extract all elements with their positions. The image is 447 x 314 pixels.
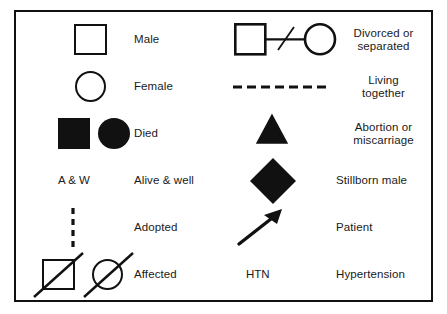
legend-label-died: Died — [134, 127, 158, 140]
filled-square-icon — [58, 118, 90, 149]
legend-row-abortion: Abortion or miscarriage — [224, 110, 431, 157]
symbol-cell-abortion — [224, 110, 336, 157]
label-cell-hypertension: Hypertension — [336, 251, 431, 298]
diagonal-arrow-icon — [236, 208, 288, 248]
open-square-icon — [74, 24, 107, 55]
legend-row-hypertension: HTN Hypertension — [224, 251, 431, 298]
legend-row-living-together: Living together — [224, 63, 431, 110]
legend-row-divorced: Divorced or separated — [224, 16, 431, 63]
symbol-cell-living-together — [224, 63, 336, 110]
filled-diamond-icon — [250, 158, 296, 204]
label-cell-affected: Affected — [134, 251, 224, 298]
legend-label-patient: Patient — [336, 221, 373, 234]
label-cell-adopted: Adopted — [134, 204, 224, 251]
legend-row-female: Female — [16, 63, 224, 110]
legend-label-abortion: Abortion or miscarriage — [336, 121, 431, 147]
symbol-cell-alive-well: A & W — [16, 157, 134, 204]
symbol-cell-died — [16, 110, 134, 157]
legend-label-living-together: Living together — [336, 74, 431, 100]
legend-row-male: Male — [16, 16, 224, 63]
symbol-cell-stillborn-male — [224, 157, 336, 204]
alive-well-abbreviation: A & W — [58, 174, 90, 186]
symbol-cell-female — [16, 63, 134, 110]
legend-row-patient: Patient — [224, 204, 431, 251]
hypertension-abbreviation: HTN — [246, 268, 270, 280]
symbol-cell-patient — [224, 204, 336, 251]
legend-row-alive-well: A & W Alive & well — [16, 157, 224, 204]
open-circle-icon — [75, 71, 106, 102]
horizontal-dashed-line-icon — [232, 83, 332, 91]
affected-slash-lines-icon — [16, 251, 134, 298]
legend-row-died: Died — [16, 110, 224, 157]
label-cell-stillborn-male: Stillborn male — [336, 157, 431, 204]
legend-left-column: Male Female Died A & W — [16, 12, 224, 300]
symbol-cell-hypertension: HTN — [224, 251, 336, 298]
filled-circle-icon — [98, 118, 130, 149]
legend-label-alive-well: Alive & well — [134, 174, 194, 187]
label-cell-alive-well: Alive & well — [134, 157, 224, 204]
label-cell-female: Female — [134, 63, 224, 110]
legend-row-stillborn-male: Stillborn male — [224, 157, 431, 204]
label-cell-abortion: Abortion or miscarriage — [336, 110, 431, 157]
symbol-cell-divorced — [224, 16, 336, 63]
symbol-cell-affected — [16, 251, 134, 298]
label-cell-died: Died — [134, 110, 224, 157]
label-cell-living-together: Living together — [336, 63, 431, 110]
symbol-cell-male — [16, 16, 134, 63]
label-cell-patient: Patient — [336, 204, 431, 251]
label-cell-male: Male — [134, 16, 224, 63]
legend-right-column: Divorced or separated Living together — [224, 12, 431, 300]
legend-frame: Male Female Died A & W — [14, 10, 433, 302]
legend-row-adopted: Adopted — [16, 204, 224, 251]
legend-row-affected: Affected — [16, 251, 224, 298]
legend-label-hypertension: Hypertension — [336, 268, 405, 281]
label-cell-divorced: Divorced or separated — [336, 16, 431, 63]
symbol-cell-adopted — [16, 204, 134, 251]
divorced-couple-icon — [234, 20, 338, 60]
legend-label-affected: Affected — [134, 268, 177, 281]
legend-label-female: Female — [134, 80, 173, 93]
legend-label-adopted: Adopted — [134, 221, 178, 234]
legend-label-stillborn-male: Stillborn male — [336, 174, 407, 187]
vertical-dashed-line-icon — [68, 206, 78, 250]
legend-label-male: Male — [134, 33, 159, 46]
filled-triangle-icon — [256, 114, 288, 144]
legend-label-divorced: Divorced or separated — [336, 27, 431, 53]
